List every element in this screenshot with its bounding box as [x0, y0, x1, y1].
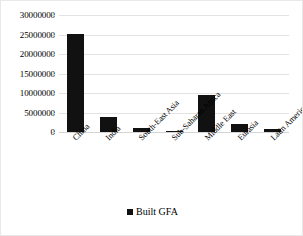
- y-axis-tick-label: 5000000: [24, 108, 55, 117]
- y-axis-tick-label: 15000000: [20, 69, 55, 78]
- y-axis-tick-mark: [52, 54, 55, 55]
- y-axis-tick-label: 10000000: [20, 89, 55, 98]
- y-axis-tick-mark: [52, 74, 55, 75]
- legend-item-label: Built GFA: [136, 207, 178, 217]
- chart-legend: Built GFA: [1, 207, 303, 217]
- y-axis-tick-mark: [52, 132, 55, 133]
- y-axis-tick-label: 20000000: [20, 50, 55, 59]
- y-axis-tick-mark: [52, 113, 55, 114]
- bar-chart: 0500000010000000150000002000000025000000…: [0, 0, 303, 236]
- y-axis-tick-mark: [52, 93, 55, 94]
- bar: [67, 34, 84, 132]
- y-axis-tick-label: 30000000: [20, 11, 55, 20]
- legend-square-marker: [127, 209, 133, 215]
- x-axis: ChinaIndiaSouth-East AsiaSub-Saharan Afr…: [59, 132, 289, 200]
- y-axis-tick-mark: [52, 35, 55, 36]
- y-axis: 0500000010000000150000002000000025000000…: [1, 15, 55, 132]
- y-axis-tick-label: 25000000: [20, 30, 55, 39]
- y-axis-tick-mark: [52, 15, 55, 16]
- bars-layer: [59, 15, 289, 132]
